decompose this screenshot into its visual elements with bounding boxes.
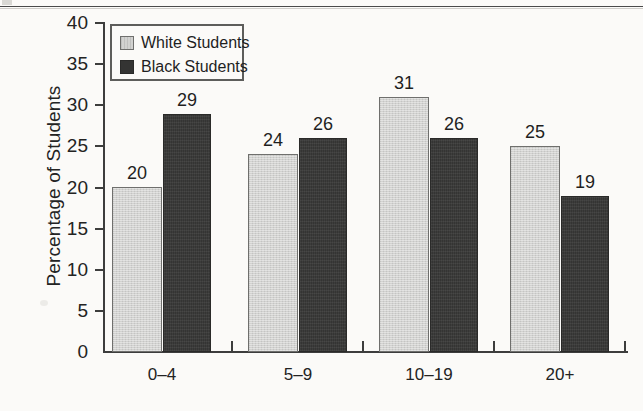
x-tick-20-plus: [624, 341, 626, 352]
y-tick-5: [95, 310, 104, 312]
legend-swatch-white-icon: [120, 36, 134, 50]
x-tick-5-9: [362, 341, 364, 352]
y-tick-label-15: 15: [42, 218, 88, 240]
bar-value-white-20-plus: 25: [500, 122, 570, 143]
top-rule: [0, 6, 643, 7]
bar-value-white-0-4: 20: [102, 163, 172, 184]
y-tick-label-25: 25: [42, 135, 88, 157]
bar-black-20-plus[interactable]: [561, 196, 609, 352]
y-tick-30: [95, 104, 104, 106]
bar-value-black-20-plus: 19: [550, 172, 620, 193]
y-tick-20: [95, 187, 104, 189]
bar-black-0-4[interactable]: [163, 114, 211, 352]
bar-black-5-9[interactable]: [299, 138, 347, 352]
y-tick-label-0: 0: [42, 341, 88, 363]
y-tick-15: [95, 228, 104, 230]
y-tick-label-35: 35: [42, 53, 88, 75]
bar-black-10-19[interactable]: [430, 138, 478, 352]
bar-white-10-19[interactable]: [379, 97, 429, 352]
y-tick-35: [95, 63, 104, 65]
legend-label-black-students: Black Students: [141, 58, 248, 76]
legend-item-white-students[interactable]: White Students: [120, 31, 242, 55]
y-tick-40: [95, 22, 104, 24]
y-tick-label-30: 30: [42, 94, 88, 116]
x-tick-label-5-9: 5–9: [238, 365, 358, 385]
legend-label-white-students: White Students: [141, 34, 250, 52]
y-tick-25: [95, 145, 104, 147]
bar-value-black-0-4: 29: [152, 90, 222, 111]
legend-swatch-black-icon: [120, 60, 134, 74]
bar-value-white-10-19: 31: [369, 73, 439, 94]
x-tick-10-19: [493, 341, 495, 352]
y-tick-label-5: 5: [42, 300, 88, 322]
bar-value-black-10-19: 26: [419, 114, 489, 135]
legend: White Students Black Students: [110, 24, 244, 81]
bar-white-5-9[interactable]: [248, 154, 298, 352]
chart-page: Percentage of Students 40 35 30 25 20 15…: [0, 0, 643, 411]
top-rule-shadow: [0, 8, 643, 9]
y-tick-label-20: 20: [42, 177, 88, 199]
bar-white-0-4[interactable]: [112, 187, 162, 352]
x-tick-label-20-plus: 20+: [500, 365, 620, 385]
x-tick-label-0-4: 0–4: [102, 365, 222, 385]
y-tick-label-10: 10: [42, 259, 88, 281]
scan-artifact: [2, 0, 12, 5]
legend-item-black-students[interactable]: Black Students: [120, 55, 242, 79]
y-tick-10: [95, 269, 104, 271]
y-tick-label-40: 40: [42, 12, 88, 34]
x-tick-label-10-19: 10–19: [369, 365, 489, 385]
x-tick-0-4: [231, 341, 233, 352]
bar-value-black-5-9: 26: [288, 114, 358, 135]
